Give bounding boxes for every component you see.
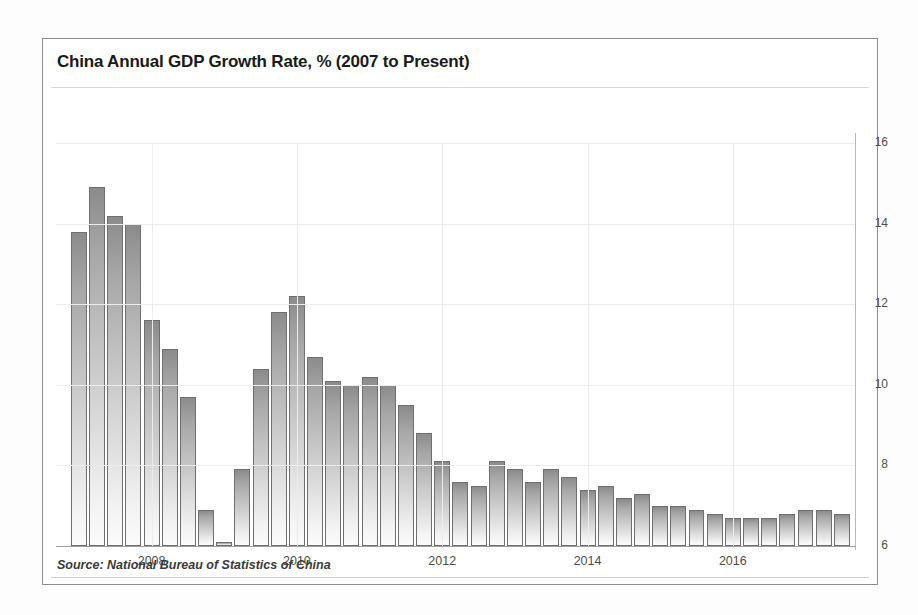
- gridline-vertical: [297, 143, 298, 546]
- bar: [779, 514, 795, 546]
- bar: [452, 482, 468, 546]
- x-axis-tick-label: 2016: [703, 554, 763, 568]
- bar: [816, 510, 832, 546]
- bar: [398, 405, 414, 546]
- bar: [180, 397, 196, 546]
- bar: [271, 312, 287, 546]
- chart-source-note: Source: National Bureau of Statistics of…: [57, 558, 331, 572]
- bar: [325, 381, 341, 546]
- bar: [71, 232, 87, 546]
- bar: [652, 506, 668, 546]
- y-axis-tick-label: 10: [862, 377, 888, 391]
- screenshot-root: China Annual GDP Growth Rate, % (2007 to…: [0, 0, 918, 615]
- bar: [798, 510, 814, 546]
- bar: [416, 433, 432, 546]
- gridline-vertical: [733, 143, 734, 546]
- bar: [107, 216, 123, 546]
- bar: [561, 477, 577, 546]
- bar: [162, 349, 178, 546]
- y-axis-tick-label: 12: [862, 296, 888, 310]
- bar: [362, 377, 378, 546]
- bar: [743, 518, 759, 546]
- bar: [198, 510, 214, 546]
- bar: [471, 486, 487, 546]
- gridline-vertical: [588, 143, 589, 546]
- bar: [707, 514, 723, 546]
- x-axis-line: [56, 546, 856, 547]
- x-axis-tick-label: 2012: [412, 554, 472, 568]
- bar: [598, 486, 614, 546]
- bar: [634, 494, 650, 546]
- y-axis-tick-label: 6: [862, 538, 888, 552]
- bar: [543, 469, 559, 546]
- plot-area: 6810121416 20082010201220142016: [56, 69, 856, 559]
- gridline-horizontal: [56, 224, 856, 225]
- chart-container: China Annual GDP Growth Rate, % (2007 to…: [42, 38, 878, 585]
- bar: [89, 187, 105, 546]
- gridline-horizontal: [56, 304, 856, 305]
- source-divider: [51, 577, 869, 578]
- bar: [689, 510, 705, 546]
- y-axis-tick-label: 8: [862, 457, 888, 471]
- bar: [253, 369, 269, 546]
- bar: [834, 514, 850, 546]
- bar: [234, 469, 250, 546]
- bar: [761, 518, 777, 546]
- y-axis-line: [855, 133, 856, 550]
- gridline-vertical: [442, 143, 443, 546]
- bar: [507, 469, 523, 546]
- bar: [670, 506, 686, 546]
- y-axis-tick-label: 16: [862, 135, 888, 149]
- bar: [489, 461, 505, 546]
- gridline-horizontal: [56, 385, 856, 386]
- gridline-horizontal: [56, 143, 856, 144]
- gridline-vertical: [152, 143, 153, 546]
- bar: [525, 482, 541, 546]
- y-axis-tick-label: 14: [862, 216, 888, 230]
- x-axis-tick-label: 2014: [558, 554, 618, 568]
- bar: [616, 498, 632, 546]
- gridline-horizontal: [56, 465, 856, 466]
